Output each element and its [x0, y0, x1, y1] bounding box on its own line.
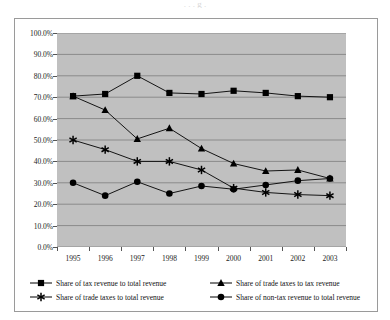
y-axis-tick-mark	[53, 140, 57, 141]
chart-container: . . . g . 0.0%10.0%20.0%30.0%40.0%50.0%6…	[0, 0, 390, 320]
y-axis-tick-label: 100.0%	[14, 29, 56, 38]
plot-area	[57, 33, 346, 247]
y-axis-tick-mark	[53, 226, 57, 227]
legend-item: Share of tax revenue to total revenue	[30, 278, 166, 288]
y-axis-tick-label: 90.0%	[14, 50, 56, 59]
y-axis-tick-label: 60.0%	[14, 114, 56, 123]
plot-svg	[57, 33, 346, 247]
y-axis-tick-mark	[53, 54, 57, 55]
x-axis-tick-label: 1996	[98, 254, 113, 263]
legend-label: Share of trade taxes to tax revenue	[236, 279, 340, 288]
x-axis-tick-mark	[153, 247, 154, 251]
y-axis-tick-mark	[53, 33, 57, 34]
x-axis-tick-mark	[282, 247, 283, 251]
x-axis-tick-label: 1997	[130, 254, 145, 263]
x-axis-tick-mark	[185, 247, 186, 251]
y-axis-labels: 0.0%10.0%20.0%30.0%40.0%50.0%60.0%70.0%8…	[14, 0, 56, 320]
x-axis-tick-label: 1998	[162, 254, 177, 263]
x-axis-tick-label: 2002	[290, 254, 305, 263]
y-axis-tick-mark	[53, 97, 57, 98]
y-axis-tick-label: 30.0%	[14, 178, 56, 187]
legend-item: Share of non-tax revenue to total revenu…	[210, 292, 360, 302]
x-axis-tick-mark	[89, 247, 90, 251]
legend-marker-triangle-icon	[210, 278, 232, 288]
y-axis-tick-mark	[53, 204, 57, 205]
y-axis-tick-label: 70.0%	[14, 93, 56, 102]
legend-label: Share of non-tax revenue to total revenu…	[236, 293, 360, 302]
x-axis-tick-mark	[57, 247, 58, 251]
y-axis-tick-mark	[53, 76, 57, 77]
legend-item: Share of trade taxes to total revenue	[30, 292, 164, 302]
chart-title-sliver: . . . g .	[0, 0, 390, 8]
x-axis-tick-mark	[218, 247, 219, 251]
legend-label: Share of trade taxes to total revenue	[56, 293, 164, 302]
x-axis-tick-label: 1999	[194, 254, 209, 263]
x-axis-tick-mark	[314, 247, 315, 251]
y-axis-tick-label: 20.0%	[14, 200, 56, 209]
y-axis-tick-mark	[53, 247, 57, 248]
y-axis-tick-mark	[53, 183, 57, 184]
x-axis-tick-label: 2003	[322, 254, 337, 263]
x-axis-tick-mark	[121, 247, 122, 251]
legend-label: Share of tax revenue to total revenue	[56, 279, 166, 288]
x-axis-tick-mark	[250, 247, 251, 251]
legend-item: Share of trade taxes to tax revenue	[210, 278, 340, 288]
legend-marker-asterisk-icon	[30, 292, 52, 302]
chart-legend: Share of tax revenue to total revenueSha…	[30, 278, 374, 306]
y-axis-tick-label: 40.0%	[14, 157, 56, 166]
y-axis-tick-label: 0.0%	[14, 243, 56, 252]
x-axis-tick-label: 1995	[66, 254, 81, 263]
legend-marker-square-icon	[30, 278, 52, 288]
y-axis-tick-label: 10.0%	[14, 221, 56, 230]
x-axis-tick-mark	[346, 247, 347, 251]
x-axis-tick-label: 2000	[226, 254, 241, 263]
y-axis-tick-mark	[53, 119, 57, 120]
legend-marker-circle-icon	[210, 292, 232, 302]
y-axis-tick-label: 50.0%	[14, 136, 56, 145]
y-axis-tick-mark	[53, 161, 57, 162]
y-axis-tick-label: 80.0%	[14, 71, 56, 80]
x-axis-tick-label: 2001	[258, 254, 273, 263]
